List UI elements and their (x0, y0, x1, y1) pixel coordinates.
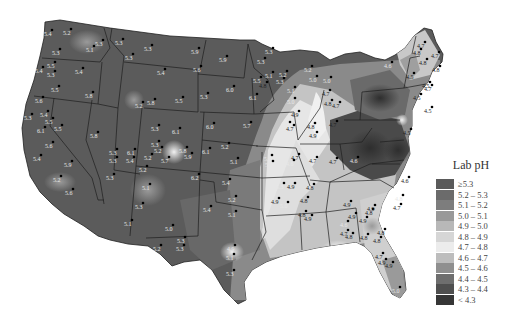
legend-label: 4.7 – 4.8 (458, 242, 488, 252)
site-ph-value: 4.7 (322, 91, 330, 97)
site-ph-value: 5.0 (392, 288, 400, 294)
site-ph-value: 5.6 (193, 67, 201, 73)
legend-swatch (436, 253, 454, 263)
site-ph-value: 5.3 (95, 41, 103, 47)
site-ph-value: 5.1 (124, 221, 132, 227)
legend-swatch (436, 211, 454, 221)
site-ph-value: 5.1 (228, 212, 236, 218)
site-ph-value: 5.9 (184, 154, 192, 160)
legend-swatch (436, 221, 454, 231)
site-ph-value: 5.2 (279, 72, 287, 78)
map-legend: Lab pH ≥5.35.2 – 5.35.1 – 5.25.0 – 5.14.… (436, 158, 514, 305)
site-ph-value: 5.3 (47, 72, 55, 78)
site-ph-value: 4.5 (403, 130, 411, 136)
site-ph-value: 6.0 (206, 124, 214, 130)
site-marker: 4.7 (393, 203, 402, 211)
legend-swatch (436, 295, 454, 305)
legend-items: ≥5.35.2 – 5.35.1 – 5.25.0 – 5.14.9 – 5.0… (436, 179, 514, 305)
site-ph-value: 5.3 (226, 271, 234, 277)
legend-label: 4.6 – 4.7 (458, 253, 488, 263)
site-ph-value: 6.1 (202, 149, 210, 155)
site-ph-value: 5.3 (151, 126, 159, 132)
site-ph-value: 5.4 (75, 69, 83, 75)
site-ph-value: 4.8 (373, 238, 381, 244)
site-ph-value: 5.3 (24, 115, 32, 121)
site-ph-value: 5.1 (265, 73, 273, 79)
site-ph-value: 4.8 (324, 101, 332, 107)
site-marker: 4.8 (395, 194, 404, 202)
site-ph-value: 5.5 (175, 98, 183, 104)
site-ph-value: 5.7 (161, 158, 169, 164)
site-ph-value: 5.6 (35, 98, 43, 104)
site-ph-value: 5.6 (65, 190, 73, 196)
site-ph-value: 5.1 (142, 185, 150, 191)
legend-item: 5.0 – 5.1 (436, 211, 514, 222)
site-ph-value: 5.3 (135, 204, 143, 210)
site-ph-value: 4.9 (343, 202, 351, 208)
legend-item: 4.5 – 4.6 (436, 263, 514, 274)
site-ph-value: 5.3 (52, 50, 60, 56)
site-ph-value: 5.2 (228, 197, 236, 203)
legend-item: 4.6 – 4.7 (436, 253, 514, 264)
site-ph-value: 5.8 (90, 133, 98, 139)
site-ph-value: 4.7 (431, 53, 439, 59)
site-ph-value: 5.5 (253, 78, 261, 84)
site-ph-value: 4.9 (385, 263, 393, 269)
site-ph-value: 5.0 (323, 78, 331, 84)
legend-item: 4.8 – 4.9 (436, 232, 514, 243)
site-ph-value: 5.2 (304, 67, 312, 73)
site-ph-value: 5.2 (135, 103, 143, 109)
site-ph-value: 5.4 (222, 180, 230, 186)
site-ph-value: 4.8 (395, 196, 403, 202)
site-ph-value: 6.1 (37, 128, 45, 134)
site-ph-value: 5.3 (276, 79, 284, 85)
site-ph-value: 5.4 (157, 70, 165, 76)
site-ph-value: 4.8 (345, 234, 353, 240)
site-ph-value: 5.9 (64, 162, 72, 168)
legend-label: 4.8 – 4.9 (458, 232, 488, 242)
site-ph-value: 4.6 (401, 178, 409, 184)
legend-item: 4.3 – 4.4 (436, 284, 514, 295)
legend-swatch (436, 232, 454, 242)
site-ph-value: 5.3 (257, 59, 265, 65)
site-ph-value: 5.3 (106, 175, 114, 181)
legend-item: 5.1 – 5.2 (436, 200, 514, 211)
legend-label: 4.9 – 5.0 (458, 221, 488, 231)
site-ph-value: 5.0 (165, 226, 173, 232)
site-ph-value: 4.9 (304, 216, 312, 222)
site-ph-value: 6.1 (127, 150, 135, 156)
site-ph-value: 5.1 (287, 88, 295, 94)
legend-item: ≥5.3 (436, 179, 514, 190)
site-ph-value: 5.5 (47, 63, 55, 69)
site-ph-value: 5.2 (53, 177, 61, 183)
site-ph-value: 5.1 (86, 47, 94, 53)
site-ph-value: 5.0 (280, 203, 288, 209)
site-ph-value: 5.4 (126, 158, 134, 164)
site-ph-value: 4.7 (309, 158, 317, 164)
site-ph-value: 5.2 (63, 30, 71, 36)
site-ph-value: 4.9 (367, 206, 375, 212)
site-ph-value: 5.0 (309, 77, 317, 83)
site-ph-value: 5.2 (144, 155, 152, 161)
site-ph-value: 4.7 (393, 205, 401, 211)
site-ph-value: 4.7 (424, 86, 432, 92)
legend-label: 5.2 – 5.3 (458, 190, 488, 200)
site-ph-value: 5.9 (191, 49, 199, 55)
site-ph-value: 4.9 (291, 112, 299, 118)
site-ph-value: 5.4 (203, 207, 211, 213)
site-ph-value: 4.8 (419, 60, 427, 66)
site-ph-value: 6.0 (226, 87, 234, 93)
site-ph-value: 4.9 (227, 246, 235, 252)
legend-swatch (436, 179, 454, 189)
site-ph-value: 5.5 (51, 87, 59, 93)
site-ph-value: 4.9 (271, 199, 279, 205)
site-marker: 4.5 (424, 106, 433, 114)
site-ph-value: 5.2 (139, 167, 147, 173)
legend-swatch (436, 274, 454, 284)
site-ph-value: 4.8 (307, 124, 315, 130)
legend-label: 4.3 – 4.4 (458, 284, 488, 294)
site-ph-value: 4.6 (350, 158, 358, 164)
site-ph-value: 5.1 (265, 162, 273, 168)
site-ph-value: 5.4 (40, 112, 48, 118)
legend-title: Lab pH (436, 158, 506, 173)
